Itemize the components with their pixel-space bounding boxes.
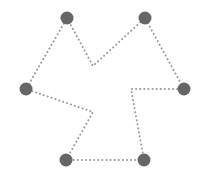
- dotted-outline: [26, 18, 184, 160]
- node-bottom-right: [138, 154, 151, 167]
- node-top-left: [61, 12, 74, 25]
- node-right: [178, 83, 191, 96]
- dotted-star-diagram: [0, 0, 209, 188]
- node-top-right: [139, 12, 152, 25]
- node-left: [20, 83, 33, 96]
- node-bottom-left: [60, 154, 73, 167]
